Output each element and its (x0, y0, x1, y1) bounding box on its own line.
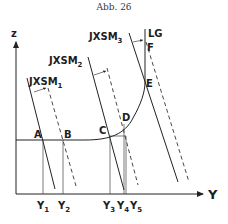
diagram-canvas: z Y LG JXSM1 JXSM2 JXSM3 A B (0, 0, 228, 224)
tick-y3: Y3 (102, 200, 115, 214)
jxsm2-lines (88, 57, 138, 190)
jxsm3-label: JXSM3 (88, 31, 123, 45)
tick-y4: Y4 (116, 200, 129, 214)
point-d: D (122, 112, 130, 123)
jxsm2-label: JXSM2 (48, 55, 83, 69)
point-b: B (64, 129, 72, 140)
point-f: F (147, 42, 154, 53)
point-c: C (99, 125, 106, 136)
z-axis-label: z (11, 28, 17, 39)
tick-y2: Y2 (57, 200, 70, 214)
lg-label: LG (148, 28, 163, 39)
drop-lines (43, 124, 126, 194)
y-axis-label: Y (207, 187, 218, 202)
point-e: E (146, 78, 153, 89)
point-a: A (34, 129, 42, 140)
tick-y1: Y1 (36, 200, 49, 214)
tick-y5: Y5 (129, 200, 142, 214)
